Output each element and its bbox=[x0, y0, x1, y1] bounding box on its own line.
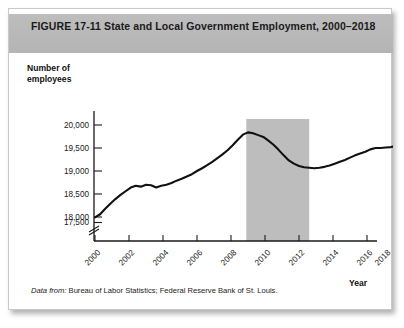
x-tick-label-group: 2000 2002 2004 2006 2008 2010 2012 2014 … bbox=[83, 248, 393, 268]
x-tick-label: 2012 bbox=[287, 248, 307, 268]
x-tick-label: 2006 bbox=[185, 248, 205, 268]
x-tick-label: 2002 bbox=[117, 248, 137, 268]
figure-title: FIGURE 17-11 State and Local Government … bbox=[31, 19, 381, 34]
chart-plot-area: Number of employees 20,000 19,500 19,000… bbox=[9, 53, 393, 311]
y-tick-label: 17,500 bbox=[64, 218, 89, 227]
x-tick-label: 2014 bbox=[321, 248, 341, 268]
source-text: Bureau of Labor Statistics; Federal Rese… bbox=[66, 286, 277, 295]
x-tick-label: 2000 bbox=[83, 248, 103, 268]
data-series-line bbox=[95, 132, 393, 217]
y-tick-label: 18,500 bbox=[64, 190, 89, 199]
x-tick-label: 2016 bbox=[355, 248, 375, 268]
x-axis-title: Year bbox=[349, 278, 368, 288]
y-axis-title-line1: Number of bbox=[27, 63, 70, 73]
source-lead: Data from: bbox=[31, 286, 66, 295]
x-tick-label: 2010 bbox=[253, 248, 273, 268]
y-tick-group bbox=[94, 125, 102, 223]
y-tick-label: 20,000 bbox=[64, 121, 89, 130]
x-tick-label: 2018 bbox=[373, 248, 393, 268]
figure-card: FIGURE 17-11 State and Local Government … bbox=[8, 8, 392, 310]
y-tick-label: 19,000 bbox=[64, 167, 89, 176]
x-tick-group bbox=[95, 235, 367, 241]
figure-header-bar: FIGURE 17-11 State and Local Government … bbox=[9, 14, 393, 53]
recession-band bbox=[246, 119, 309, 241]
x-tick-label: 2004 bbox=[151, 248, 171, 268]
y-tick-label: 19,500 bbox=[64, 144, 89, 153]
y-axis-title-line2: employees bbox=[27, 74, 72, 84]
source-note: Data from: Bureau of Labor Statistics; F… bbox=[31, 286, 278, 295]
x-tick-label: 2008 bbox=[219, 248, 239, 268]
chart-svg: Number of employees 20,000 19,500 19,000… bbox=[9, 53, 393, 311]
